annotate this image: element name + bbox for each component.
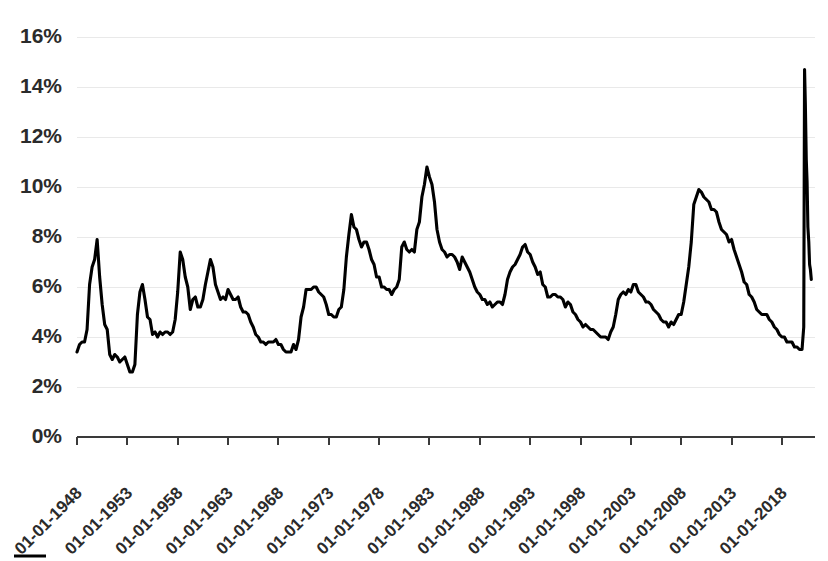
y-axis-tick-label: 2%: [32, 374, 63, 397]
y-axis-tick-label: 12%: [20, 124, 62, 147]
y-axis-tick-label: 0%: [32, 424, 63, 447]
y-axis-tick-label: 16%: [20, 24, 62, 47]
y-axis-tick-label: 4%: [32, 324, 63, 347]
chart-canvas: 0%2%4%6%8%10%12%14%16% 01-01-194801-01-1…: [0, 0, 828, 561]
y-axis-tick-label: 14%: [20, 74, 62, 97]
chart-background: [0, 0, 828, 561]
y-axis-tick-label: 10%: [20, 174, 62, 197]
unemployment-rate-line-chart: 0%2%4%6%8%10%12%14%16% 01-01-194801-01-1…: [0, 0, 828, 561]
y-axis-tick-label: 6%: [32, 274, 63, 297]
y-axis-tick-label: 8%: [32, 224, 63, 247]
